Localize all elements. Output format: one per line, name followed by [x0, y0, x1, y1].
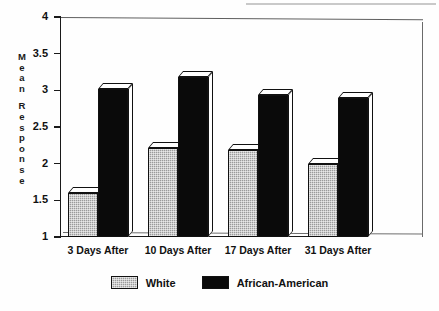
bar-front-face — [148, 148, 178, 237]
y-axis-tick-mark — [54, 16, 61, 17]
y-axis-tick-label: 3 — [14, 84, 48, 95]
bar-front-face — [178, 77, 208, 237]
bar-side-face — [368, 92, 373, 237]
bar-front-face — [68, 193, 98, 237]
y-axis-tick-label: 2 — [14, 158, 48, 169]
bar-side-face — [128, 83, 133, 237]
y-axis-title-letter: e — [14, 176, 30, 187]
gray-swatch — [111, 276, 138, 289]
bar-side-face — [288, 89, 293, 236]
bar-chart-figure: MeanResponse 11.522.533.54 3 Days After1… — [0, 0, 439, 311]
bar-front-face — [258, 95, 288, 237]
y-axis-tick-label: 1.5 — [14, 194, 48, 205]
plot-frame-right-edge — [422, 22, 423, 237]
bar-side-face — [208, 71, 213, 237]
y-axis-tick-mark — [54, 53, 61, 54]
category-label: 31 Days After — [285, 244, 391, 256]
y-axis-tick-mark — [54, 90, 61, 91]
y-axis-tick-label: 4 — [14, 11, 48, 22]
y-axis-tick-mark — [54, 126, 61, 127]
legend-label: White — [146, 277, 176, 289]
bar-african-american — [178, 77, 208, 237]
black-swatch — [202, 276, 229, 289]
bar-white — [68, 193, 98, 237]
bar-african-american — [98, 89, 128, 237]
bar-front-face — [98, 89, 128, 237]
bar-front-face — [338, 98, 368, 237]
bar-front-face — [228, 150, 258, 237]
y-axis-tick-label: 1 — [14, 231, 48, 242]
bar-african-american — [258, 95, 288, 237]
y-axis-tick-mark — [54, 236, 61, 237]
y-axis-tick-label: 2.5 — [14, 121, 48, 132]
y-axis-tick-mark — [54, 163, 61, 164]
bar-white — [228, 150, 258, 237]
legend-item: White — [111, 276, 176, 289]
y-axis-tick-label: 3.5 — [14, 48, 48, 59]
bar-white — [148, 148, 178, 237]
bar-african-american — [338, 98, 368, 237]
legend-item: African-American — [202, 276, 329, 289]
bar-white — [308, 164, 338, 237]
chart-legend: WhiteAfrican-American — [0, 276, 439, 289]
bar-front-face — [308, 164, 338, 237]
y-axis-tick-mark — [54, 200, 61, 201]
legend-label: African-American — [237, 277, 329, 289]
